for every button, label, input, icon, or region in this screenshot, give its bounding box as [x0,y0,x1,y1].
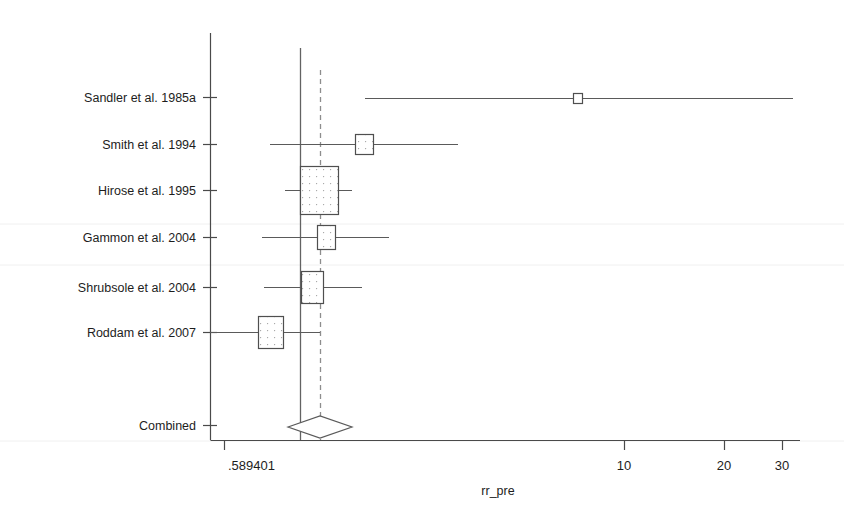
effect-marker-row-3 [318,226,336,250]
x-axis-ticks [225,441,783,451]
x-tick-label-2: 20 [717,458,731,473]
effect-marker-row-5 [259,317,284,349]
study-label-row-4: Shrubsole et al. 2004 [78,281,196,295]
x-tick-label-0: .589401 [228,458,275,473]
forest-plot-canvas: Sandler et al. 1985a Smith et al. 1994 H… [0,0,844,524]
effect-marker-row-0 [574,94,583,104]
study-labels: Sandler et al. 1985a Smith et al. 1994 H… [78,91,196,433]
x-tick-labels: .589401 10 20 30 [228,458,789,473]
study-label-row-0: Sandler et al. 1985a [84,91,196,105]
effect-marker-row-1 [356,135,374,155]
summary-diamond [288,416,352,438]
x-tick-label-1: 10 [617,458,631,473]
effect-marker-row-4 [302,272,324,304]
study-label-row-5: Roddam et al. 2007 [87,326,196,340]
forest-plot: Sandler et al. 1985a Smith et al. 1994 H… [0,0,844,524]
study-label-row-2: Hirose et al. 1995 [98,184,196,198]
study-label-row-1: Smith et al. 1994 [102,138,196,152]
summary-label: Combined [139,419,196,433]
effect-marker-row-2 [301,167,339,215]
x-axis-title: rr_pre [481,484,514,498]
study-label-row-3: Gammon et al. 2004 [83,231,196,245]
ci-lines [210,99,793,333]
effect-markers [259,94,583,349]
x-tick-label-3: 30 [775,458,789,473]
